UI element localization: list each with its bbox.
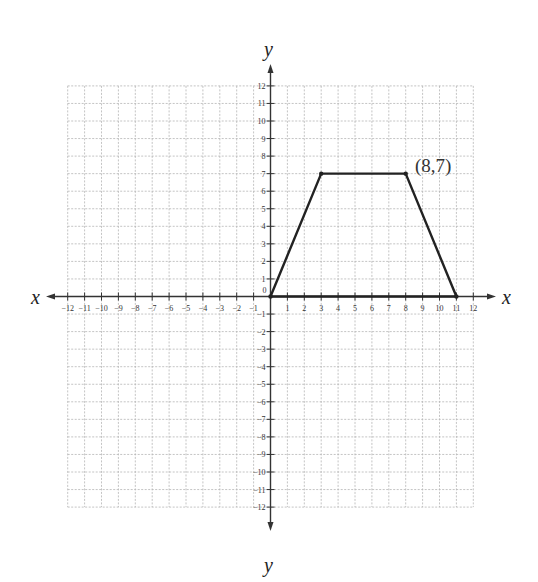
trapezoid-shape	[268, 171, 458, 298]
x-tick-label: 5	[353, 304, 357, 313]
x-axis-arrow-left-icon	[46, 294, 55, 300]
x-tick-label: −5	[182, 304, 191, 313]
y-tick-label: 5	[262, 205, 266, 214]
x-tick-label: −6	[165, 304, 174, 313]
x-tick-label: −3	[216, 304, 225, 313]
y-tick-label: −1	[257, 310, 266, 319]
y-tick-label: −6	[257, 398, 266, 407]
y-tick-label: −4	[257, 363, 266, 372]
y-tick-label: −12	[253, 503, 266, 512]
x-tick-label: −10	[95, 304, 108, 313]
y-tick-label: 10	[258, 117, 266, 126]
y-axis-arrow-down-icon	[268, 522, 274, 531]
x-tick-label: −11	[78, 304, 90, 313]
y-tick-label: 6	[262, 187, 266, 196]
y-tick-label: −11	[253, 486, 265, 495]
y-tick-label: 4	[262, 222, 266, 231]
y-tick-label: 2	[262, 257, 266, 266]
y-tick-label: −7	[257, 415, 266, 424]
y-tick-label: −3	[257, 345, 266, 354]
coordinate-plane: −12−11−10−9−8−7−6−5−4−3−2−11234567891011…	[0, 0, 538, 582]
x-tick-label: 11	[453, 304, 461, 313]
x-axis-label-right: x	[501, 286, 511, 308]
y-tick-label: −8	[257, 433, 266, 442]
origin-label: 0	[263, 286, 267, 295]
y-tick-label: 7	[262, 170, 266, 179]
x-axis-label-left: x	[30, 286, 40, 308]
y-tick-label: 3	[262, 240, 266, 249]
y-tick-label: −10	[253, 468, 266, 477]
x-tick-label: 7	[387, 304, 391, 313]
y-axis-arrow-up-icon	[268, 64, 274, 73]
y-tick-label: −9	[257, 450, 266, 459]
y-axis-label-top: y	[262, 38, 273, 61]
y-axis-label-bottom: y	[262, 554, 273, 577]
vertex-point	[319, 171, 323, 175]
x-tick-label: −2	[232, 304, 241, 313]
y-tick-label: 1	[262, 275, 266, 284]
y-tick-label: −2	[257, 328, 266, 337]
x-tick-label: −7	[148, 304, 157, 313]
x-tick-label: 6	[370, 304, 374, 313]
trapezoid-outline	[271, 174, 457, 297]
x-axis-arrow-right-icon	[487, 294, 496, 300]
vertex-point	[454, 294, 458, 298]
point-annotation: (8,7)	[415, 155, 451, 177]
x-tick-label: 8	[404, 304, 408, 313]
x-tick-label: 10	[436, 304, 444, 313]
vertex-point	[268, 294, 272, 298]
vertex-point	[404, 171, 408, 175]
x-tick-label: 4	[336, 304, 340, 313]
y-tick-label: 9	[262, 135, 266, 144]
y-tick-label: 12	[258, 82, 266, 91]
y-tick-label: −5	[257, 380, 266, 389]
x-tick-label: 3	[319, 304, 323, 313]
x-tick-label: 1	[285, 304, 289, 313]
x-tick-label: −12	[61, 304, 74, 313]
y-tick-label: 8	[262, 152, 266, 161]
y-tick-label: 11	[258, 99, 266, 108]
x-tick-label: 2	[302, 304, 306, 313]
x-tick-label: −8	[131, 304, 140, 313]
x-tick-label: 12	[469, 304, 477, 313]
x-tick-label: −4	[199, 304, 208, 313]
x-tick-label: 9	[421, 304, 425, 313]
x-tick-label: −9	[114, 304, 123, 313]
